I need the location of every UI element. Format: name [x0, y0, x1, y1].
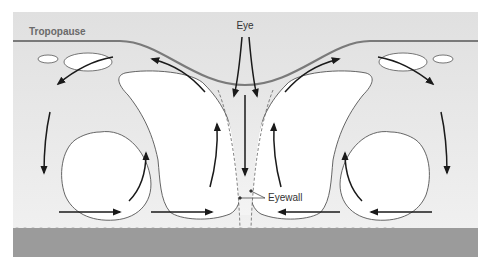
left-small-cloud	[38, 55, 58, 63]
ocean-surface	[13, 228, 478, 258]
eyewall-label: Eyewall	[268, 192, 302, 203]
right-small-cloud	[433, 55, 453, 63]
hurricane-diagram: Tropopause Eye Eyewall	[0, 0, 491, 270]
right-upper-cloud	[379, 53, 427, 71]
left-upper-cloud	[64, 53, 112, 71]
eye-label: Eye	[236, 20, 254, 31]
tropopause-label: Tropopause	[29, 26, 86, 37]
